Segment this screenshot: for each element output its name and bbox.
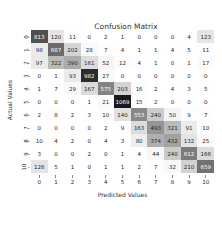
matrix-cell: 0 — [164, 69, 181, 82]
matrix-cell: 0 — [48, 147, 65, 160]
y-tick-label: 7- — [18, 121, 30, 134]
matrix-cell: 321 — [164, 121, 181, 134]
x-tick-label: 4 — [98, 175, 115, 185]
matrix-cell: 5 — [48, 160, 65, 173]
matrix-cell: 0 — [64, 121, 81, 134]
x-tick-label: 8 — [164, 175, 181, 185]
matrix-cell: 123 — [197, 30, 214, 43]
matrix-cell: 0 — [31, 95, 48, 108]
matrix-cell: 4 — [114, 43, 131, 56]
matrix-cell: 553 — [131, 108, 148, 121]
matrix-cell: 5 — [197, 82, 214, 95]
matrix-cell: 390 — [64, 56, 81, 69]
matrix-cell: 0 — [147, 69, 164, 82]
matrix-cell: 11 — [64, 30, 81, 43]
matrix-cell: 0 — [181, 69, 198, 82]
matrix-cell: 240 — [147, 108, 164, 121]
matrix-cell: 2 — [131, 160, 148, 173]
x-tick-label: 2 — [64, 175, 81, 185]
y-tick-label: 0- — [18, 30, 30, 43]
confusion-matrix-heatmap: 8131201102100041239868720228741145119732… — [31, 30, 214, 173]
matrix-cell: 52 — [98, 56, 115, 69]
matrix-cell: 0 — [197, 95, 214, 108]
matrix-cell: 2 — [64, 108, 81, 121]
matrix-cell: 12 — [114, 56, 131, 69]
matrix-cell: 16 — [131, 82, 148, 95]
matrix-cell: 10 — [98, 108, 115, 121]
matrix-cell: 4 — [48, 134, 65, 147]
matrix-cell: 1 — [64, 160, 81, 173]
matrix-cell: 91 — [181, 121, 198, 134]
y-axis-ticks: 0-1-2-3-4-5-6-7-8-9-10- — [18, 30, 30, 173]
matrix-cell: 32 — [164, 160, 181, 173]
matrix-cell: 15 — [131, 95, 148, 108]
y-tick-label: 10- — [18, 160, 30, 173]
matrix-cell: 163 — [131, 121, 148, 134]
matrix-cell: 1 — [48, 69, 65, 82]
matrix-cell: 9 — [181, 108, 198, 121]
x-tick-label: 1 — [48, 175, 65, 185]
y-tick-label: 1- — [18, 43, 30, 56]
matrix-cell: 612 — [181, 147, 198, 160]
y-tick-label: 5- — [18, 95, 30, 108]
x-tick-label: 6 — [131, 175, 148, 185]
matrix-cell: 17 — [197, 56, 214, 69]
matrix-cell: 10 — [197, 121, 214, 134]
matrix-cell: 9 — [114, 121, 131, 134]
matrix-cell: 1069 — [114, 95, 131, 108]
matrix-cell: 2 — [147, 82, 164, 95]
matrix-cell: 575 — [98, 82, 115, 95]
matrix-cell: 1 — [98, 160, 115, 173]
matrix-cell: 0 — [31, 121, 48, 134]
matrix-cell: 3 — [81, 108, 98, 121]
matrix-cell: 29 — [64, 82, 81, 95]
x-tick-label: 10 — [197, 175, 214, 185]
matrix-cell: 1 — [114, 30, 131, 43]
matrix-cell: 240 — [164, 147, 181, 160]
matrix-cell: 1 — [181, 56, 198, 69]
matrix-cell: 1 — [147, 56, 164, 69]
matrix-cell: 1 — [31, 82, 48, 95]
matrix-cell: 0 — [48, 95, 65, 108]
matrix-cell: 493 — [147, 121, 164, 134]
matrix-cell: 8 — [48, 108, 65, 121]
y-tick-label: 9- — [18, 147, 30, 160]
x-tick-label: 7 — [147, 175, 164, 185]
matrix-cell: 3 — [114, 134, 131, 147]
matrix-cell: 2 — [81, 147, 98, 160]
matrix-cell: 0 — [98, 147, 115, 160]
matrix-cell: 166 — [197, 147, 214, 160]
matrix-cell: 322 — [48, 56, 65, 69]
y-tick-label: 2- — [18, 56, 30, 69]
matrix-cell: 0 — [31, 69, 48, 82]
matrix-cell: 27 — [98, 69, 115, 82]
matrix-cell: 126 — [31, 160, 48, 173]
matrix-cell: 50 — [164, 108, 181, 121]
matrix-cell: 982 — [81, 69, 98, 82]
matrix-cell: 0 — [164, 30, 181, 43]
matrix-cell: 93 — [64, 69, 81, 82]
matrix-cell: 5 — [181, 43, 198, 56]
matrix-cell: 2 — [64, 134, 81, 147]
matrix-cell: 1 — [114, 147, 131, 160]
x-axis-label: Predicted Values — [31, 191, 214, 198]
x-tick-label: 0 — [31, 175, 48, 185]
matrix-cell: 659 — [197, 160, 214, 173]
y-tick-label: 3- — [18, 69, 30, 82]
matrix-cell: 210 — [181, 160, 198, 173]
matrix-cell: 0 — [114, 69, 131, 82]
matrix-cell: 161 — [81, 56, 98, 69]
matrix-cell: 0 — [131, 69, 148, 82]
matrix-cell: 140 — [114, 108, 131, 121]
matrix-cell: 202 — [64, 43, 81, 56]
y-tick-label: 4- — [18, 82, 30, 95]
matrix-cell: 0 — [147, 30, 164, 43]
matrix-cell: 0 — [81, 160, 98, 173]
matrix-cell: 80 — [131, 134, 148, 147]
matrix-cell: 2 — [147, 95, 164, 108]
matrix-cell: 432 — [164, 134, 181, 147]
matrix-cell: 4 — [164, 43, 181, 56]
matrix-cell: 132 — [181, 134, 198, 147]
matrix-cell: 10 — [31, 134, 48, 147]
matrix-cell: 28 — [81, 43, 98, 56]
